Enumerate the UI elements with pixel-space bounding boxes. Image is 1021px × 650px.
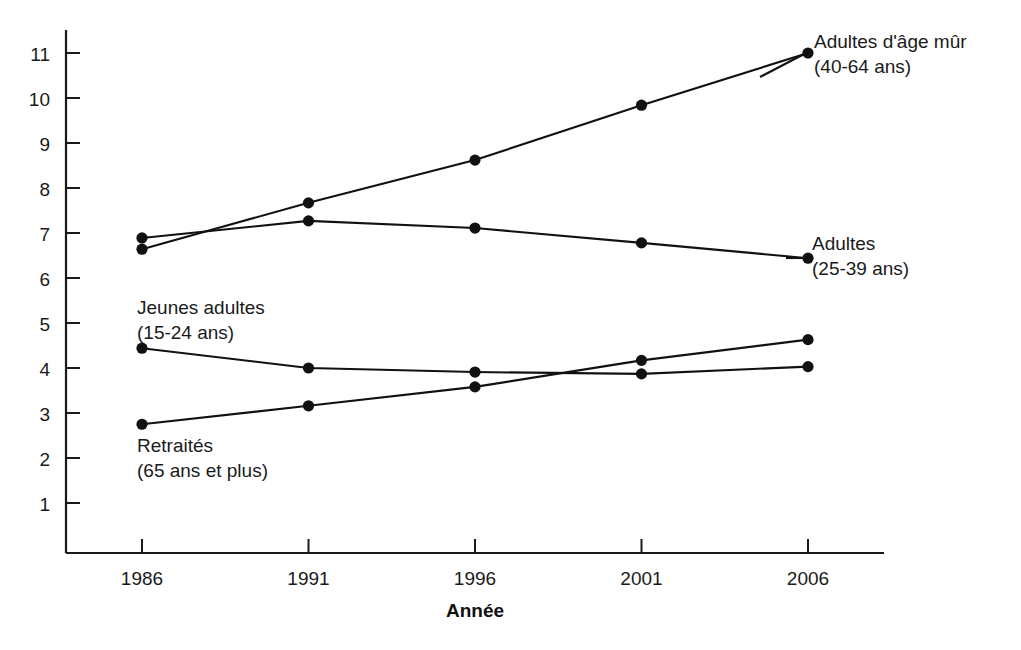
x-tick-label: 1986 (121, 568, 163, 589)
y-tick-label: 5 (39, 314, 50, 335)
chart-canvas: 11 10 9 8 7 6 5 4 3 2 1 1986 1991 1996 2… (0, 0, 1021, 650)
data-point (636, 237, 647, 248)
annotation-young-adults-line1: Jeunes adultes (137, 297, 265, 318)
line-chart: 11 10 9 8 7 6 5 4 3 2 1 1986 1991 1996 2… (0, 0, 1021, 650)
data-point (136, 343, 147, 354)
x-tick-label: 1991 (287, 568, 329, 589)
annotation-retirees-line1: Retraités (137, 435, 213, 456)
x-tick-marks (142, 539, 808, 553)
annotation-mature-adults: Adultes d'âge mûr (40-64 ans) (814, 31, 967, 77)
series-layer (136, 47, 813, 429)
data-point (636, 100, 647, 111)
y-tick-label: 1 (39, 494, 50, 515)
y-tick-label: 3 (39, 404, 50, 425)
data-point (136, 232, 147, 243)
data-point (469, 366, 480, 377)
x-tick-label: 2006 (787, 568, 829, 589)
data-point (469, 155, 480, 166)
annotation-leader-lines (760, 52, 808, 258)
y-tick-label: 9 (39, 134, 50, 155)
x-tick-label: 1996 (454, 568, 496, 589)
annotation-young-adults-line2: (15-24 ans) (137, 322, 234, 343)
data-point (802, 334, 813, 345)
annotation-retirees-line2: (65 ans et plus) (137, 460, 268, 481)
x-tick-labels: 1986 1991 1996 2001 2006 (121, 568, 829, 589)
y-tick-label: 6 (39, 269, 50, 290)
x-axis-title: Année (446, 600, 504, 621)
y-tick-label: 4 (39, 359, 50, 380)
data-point (303, 215, 314, 226)
data-point (636, 355, 647, 366)
annotation-retirees: Retraités (65 ans et plus) (137, 435, 268, 481)
series-4 (136, 334, 813, 430)
data-point (136, 419, 147, 430)
data-point (303, 400, 314, 411)
data-point (303, 362, 314, 373)
annotation-adults-line2: (25-39 ans) (812, 258, 909, 279)
series-3 (136, 343, 813, 380)
y-tick-label: 11 (30, 44, 50, 65)
y-tick-label: 8 (39, 179, 50, 200)
annotation-young-adults: Jeunes adultes (15-24 ans) (137, 297, 265, 343)
y-tick-marks (66, 53, 80, 503)
annotation-adults-line1: Adultes (812, 233, 875, 254)
y-tick-label: 7 (39, 224, 50, 245)
series-line (142, 53, 808, 249)
y-tick-label: 2 (39, 449, 50, 470)
annotation-adults: Adultes (25-39 ans) (812, 233, 909, 279)
y-tick-labels: 11 10 9 8 7 6 5 4 3 2 1 (29, 44, 51, 515)
x-tick-label: 2001 (620, 568, 662, 589)
data-point (802, 361, 813, 372)
data-point (303, 197, 314, 208)
data-point (469, 381, 480, 392)
data-point (136, 244, 147, 255)
y-tick-label: 10 (29, 89, 50, 110)
data-point (636, 368, 647, 379)
data-point (469, 222, 480, 233)
annotation-mature-adults-line2: (40-64 ans) (814, 56, 911, 77)
annotation-mature-adults-line1: Adultes d'âge mûr (814, 31, 967, 52)
